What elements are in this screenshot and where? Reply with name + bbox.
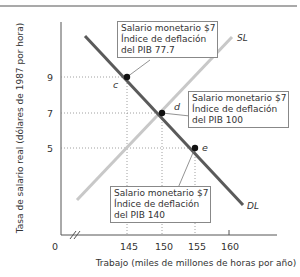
label-point-d: d [174,101,181,112]
label-point-c: c [113,79,119,90]
y-tick-9: 9 [47,72,53,83]
x-tick-145: 145 [120,241,138,252]
y-tick-5: 5 [47,143,53,154]
origin-label: 0 [52,241,58,252]
x-tick-150: 150 [155,241,173,252]
point-e [192,145,198,151]
box-d-line1: Salario monetario $7 [192,93,286,104]
box-d-line2: Índice de deflación [192,104,286,115]
annotation-leaders [127,60,195,188]
point-c [124,74,130,80]
label-point-e: e [202,142,208,153]
box-e-line2: Índice de deflación [114,199,208,210]
box-c-line3: del PIB 77.7 [121,45,215,56]
box-c-line2: Índice de deflación [121,34,215,45]
box-e-line1: Salario monetario $7 [114,188,208,199]
point-d [159,110,165,116]
label-curve-dl: DL [247,201,259,211]
x-tick-160: 160 [221,241,239,252]
y-tick-7: 7 [47,108,53,119]
label-curve-sl: SL [237,33,248,43]
annotation-box-e: Salario monetario $7 Índice de deflación… [110,186,211,223]
annotation-box-c: Salario monetario $7 Índice de deflación… [117,21,218,58]
x-axis-title: Trabajo (miles de millones de horas por … [95,258,297,268]
y-axis-title: Tasa de salario real (dólares de 1987 po… [15,23,25,234]
x-tick-155: 155 [188,241,206,252]
box-e-line3: del PIB 140 [114,210,208,221]
box-c-line1: Salario monetario $7 [121,23,215,34]
box-d-line3: del PIB 100 [192,115,286,126]
annotation-box-d: Salario monetario $7 Índice de deflación… [188,91,289,128]
